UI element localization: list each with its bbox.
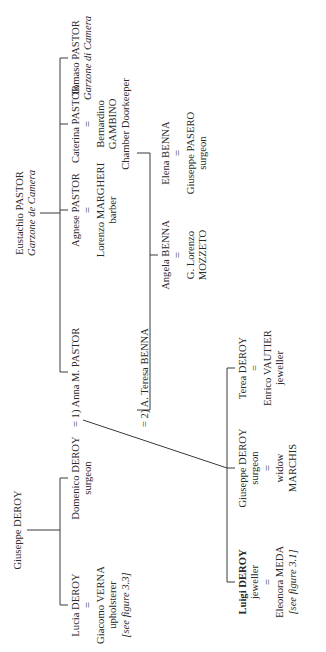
person-tomaso-pastor: Tomaso PASTOR Garzone di Camera bbox=[70, 16, 95, 100]
person-name: Terea DEROY bbox=[237, 337, 248, 400]
marriage-sign: = bbox=[82, 566, 94, 644]
person-name: Domenico DEROY bbox=[70, 436, 81, 519]
person-title: Garzone di Camera bbox=[82, 16, 93, 100]
person-name: Angela BENNA bbox=[160, 220, 171, 290]
spouse-occupation: upholsterer bbox=[107, 581, 118, 629]
figure-reference: [see figure 3.3] bbox=[120, 572, 131, 637]
spouse-occupation: surgeon bbox=[197, 136, 208, 169]
person-name: Giuseppe DEROY bbox=[237, 428, 248, 507]
person-name: Lucia DEROY bbox=[70, 573, 81, 636]
person-name: Giuseppe DEROY bbox=[12, 490, 23, 569]
spouse-surname: MOZZETO bbox=[197, 230, 208, 280]
person-name: Elena BENNA bbox=[160, 121, 171, 184]
person-giuseppe-deroy-son: Giuseppe DEROY surgeon = widow MARCHIS bbox=[237, 428, 299, 507]
person-name: Agnese PASTOR bbox=[70, 173, 81, 247]
person-agnese-pastor: Agnese PASTOR = Lorenzo MARGHERI barber bbox=[70, 163, 120, 257]
person-domenico-deroy: Domenico DEROY surgeon bbox=[70, 436, 95, 519]
person-first-name: Luigi bbox=[237, 590, 248, 614]
person-elena-benna: Elena BENNA = Giuseppe PASERO surgeon bbox=[160, 112, 210, 194]
spouse-occupation: barber bbox=[107, 196, 118, 223]
spouse-occupation: jeweller bbox=[274, 351, 285, 385]
person-name: Tomaso PASTOR bbox=[70, 20, 81, 96]
spouse-name: Eleonora MEDA bbox=[274, 546, 285, 618]
marriage-label-first: = 1) Anna M. PASTOR bbox=[70, 328, 82, 427]
spouse-occupation: Chamber Doorkeeper bbox=[120, 78, 131, 169]
person-occupation: surgeon bbox=[249, 451, 260, 484]
spouse-name: Lorenzo MARGHERI bbox=[95, 163, 106, 257]
marriage-label-second: = 2) A. Teresa BENNA bbox=[139, 328, 151, 427]
spouse-name: G. Lorenzo bbox=[185, 231, 196, 279]
person-occupation: jeweller bbox=[249, 565, 260, 599]
spouse-surname: GAMBINO bbox=[107, 99, 118, 150]
person-surname: DEROY bbox=[237, 549, 248, 587]
spouse-name: Bernardino bbox=[95, 100, 106, 148]
person-name: Eustachio PASTOR bbox=[14, 171, 25, 255]
family-tree-diagram: Giuseppe DEROY Eustachio PASTOR Garzone … bbox=[0, 0, 326, 652]
marriage-sign: = bbox=[172, 112, 184, 194]
marriage-sign: = bbox=[249, 330, 261, 406]
person-occupation: surgeon bbox=[82, 461, 93, 494]
person-title: Garzone de Camera bbox=[26, 170, 37, 256]
spouse-name: Giacomo VERNA bbox=[95, 566, 106, 644]
spouse-surname: MARCHIS bbox=[287, 444, 298, 492]
person-giuseppe-deroy-root: Giuseppe DEROY bbox=[12, 490, 24, 569]
person-lucia-deroy: Lucia DEROY = Giacomo VERNA upholsterer … bbox=[70, 566, 132, 644]
spouse-name: Giuseppe PASERO bbox=[185, 112, 196, 194]
spouse-name: widow bbox=[274, 454, 285, 483]
person-luigi-deroy: Luigi DEROY jeweller = Eleonora MEDA [se… bbox=[237, 546, 299, 618]
person-terea-deroy: Terea DEROY = Enrico VAUTIER jeweller bbox=[237, 330, 287, 406]
spouse-name: Enrico VAUTIER bbox=[262, 330, 273, 406]
marriage-sign: = bbox=[262, 428, 274, 507]
figure-reference: [see figure 3.1] bbox=[287, 549, 298, 614]
person-angela-benna: Angela BENNA = G. Lorenzo MOZZETO bbox=[160, 220, 210, 290]
marriage-sign: = bbox=[172, 220, 184, 290]
person-eustachio-pastor: Eustachio PASTOR Garzone de Camera bbox=[14, 170, 39, 256]
marriage-sign: = bbox=[82, 163, 94, 257]
marriage-sign: = bbox=[262, 546, 274, 618]
